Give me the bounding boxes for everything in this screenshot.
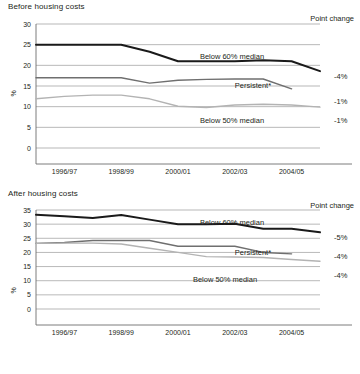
y-tick-label: 5 <box>27 124 31 131</box>
chart-panel-after-housing-costs: After housing costs Point change 0510152… <box>0 187 360 374</box>
x-tick-label: 2000/01 <box>165 168 190 175</box>
series-line <box>36 45 320 71</box>
point-change-value: -4% <box>334 72 348 81</box>
series-inline-label: Persistent* <box>235 248 271 257</box>
y-tick-label: 0 <box>27 306 31 313</box>
plot-area-after: 051015202530351996/971998/992000/012002/… <box>0 187 360 374</box>
series-inline-label: Persistent* <box>235 81 271 90</box>
y-tick-label: 20 <box>23 62 31 69</box>
y-tick-label: 15 <box>23 83 31 90</box>
x-tick-label: 1996/97 <box>52 168 77 175</box>
y-tick-label: 35 <box>23 207 31 214</box>
x-tick-label: 2004/05 <box>279 168 304 175</box>
series-inline-label: Below 60% median <box>200 218 264 227</box>
chart-panel-before-housing-costs: Before housing costs Point change 051015… <box>0 0 360 187</box>
series-line <box>36 95 320 107</box>
y-tick-label: 20 <box>23 249 31 256</box>
chart-svg-before: 0510152025301996/971998/992000/012002/03… <box>0 0 360 187</box>
x-tick-label: 1996/97 <box>52 329 77 336</box>
series-inline-label: Below 60% median <box>200 52 264 61</box>
point-change-value: -1% <box>334 116 348 125</box>
chart-svg-after: 051015202530351996/971998/992000/012002/… <box>0 187 360 374</box>
point-change-value: -1% <box>334 97 348 106</box>
x-tick-label: 1998/99 <box>109 329 134 336</box>
plot-area-before: 0510152025301996/971998/992000/012002/03… <box>0 0 360 187</box>
point-change-value: -5% <box>334 233 348 242</box>
y-tick-label: 25 <box>23 235 31 242</box>
series-line <box>36 215 320 233</box>
y-tick-label: 30 <box>23 21 31 28</box>
y-tick-label: 30 <box>23 221 31 228</box>
y-tick-label: 5 <box>27 291 31 298</box>
y-tick-label: 15 <box>23 263 31 270</box>
y-axis-label-after: % <box>10 287 17 293</box>
y-tick-label: 0 <box>27 145 31 152</box>
y-tick-label: 10 <box>23 277 31 284</box>
y-axis-label-before: % <box>10 90 17 96</box>
x-tick-label: 2002/03 <box>222 168 247 175</box>
point-change-value: -4% <box>334 252 348 261</box>
figure-root: Before housing costs Point change 051015… <box>0 0 360 374</box>
x-tick-label: 2002/03 <box>222 329 247 336</box>
point-change-value: -4% <box>334 271 348 280</box>
y-tick-label: 10 <box>23 103 31 110</box>
series-inline-label: Below 50% median <box>193 275 257 284</box>
series-inline-label: Below 50% median <box>200 116 264 125</box>
x-tick-label: 2004/05 <box>279 329 304 336</box>
x-tick-label: 2000/01 <box>165 329 190 336</box>
y-tick-label: 25 <box>23 41 31 48</box>
x-tick-label: 1998/99 <box>109 168 134 175</box>
